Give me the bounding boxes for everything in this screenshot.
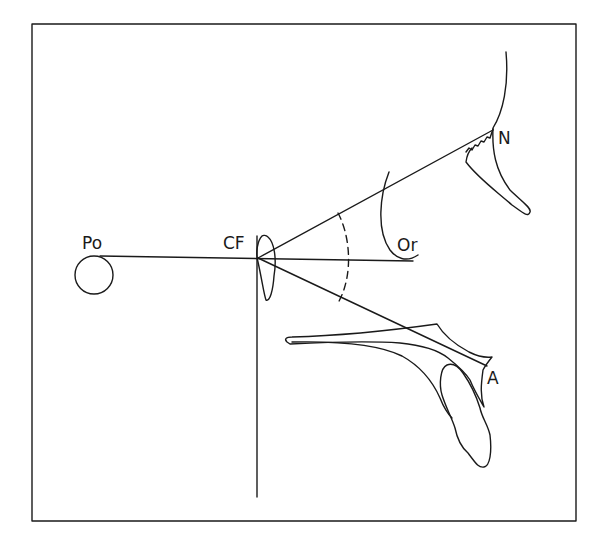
maxilla-outline: [286, 324, 492, 407]
diagram-frame: [32, 24, 576, 521]
label-a: A: [487, 368, 499, 388]
label-po: Po: [82, 233, 102, 253]
cf-n-line: [258, 130, 493, 258]
label-n: N: [498, 128, 511, 148]
cf-a-line: [258, 258, 487, 366]
porion-circle: [75, 256, 113, 294]
maxilla-lower-contour: [292, 342, 452, 418]
label-cf: CF: [223, 233, 245, 253]
incisor-outline: [440, 364, 490, 467]
cephalometric-diagram: Po CF Or N A: [0, 0, 603, 551]
pterygoid-fissure-outline: [257, 235, 275, 300]
label-or: Or: [397, 235, 417, 255]
angle-arc-dashed: [338, 213, 349, 303]
